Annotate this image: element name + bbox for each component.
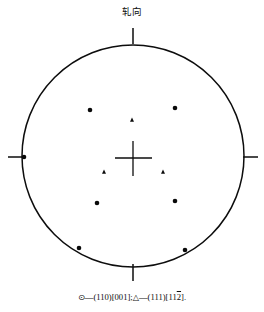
caption-dash-2: — bbox=[139, 292, 148, 302]
data-point-triangle bbox=[102, 169, 106, 173]
data-point-circle bbox=[183, 248, 188, 253]
data-point-circle bbox=[88, 108, 93, 113]
data-point-triangle bbox=[130, 117, 134, 121]
data-point-circle bbox=[173, 106, 178, 111]
data-point-triangle bbox=[161, 169, 165, 173]
orientation-label-1: (110)[001] bbox=[93, 292, 130, 302]
orientation-label-2-prefix: (111)[11 bbox=[148, 292, 177, 302]
data-point-circle bbox=[173, 199, 178, 204]
pole-figure-container: 轧向 ⊙—(110)[001];△—(111)[112]. bbox=[0, 0, 264, 312]
open-circle-symbol: ⊙ bbox=[78, 292, 85, 302]
data-point-circle bbox=[77, 246, 82, 251]
figure-legend-caption: ⊙—(110)[001];△—(111)[112]. bbox=[0, 291, 264, 303]
caption-period: . bbox=[184, 292, 186, 302]
data-point-circle bbox=[95, 201, 100, 206]
pole-figure-plot bbox=[0, 0, 264, 312]
data-markers-layer bbox=[22, 106, 188, 253]
center-cross-marker bbox=[115, 141, 152, 176]
data-point-circle bbox=[22, 155, 27, 160]
